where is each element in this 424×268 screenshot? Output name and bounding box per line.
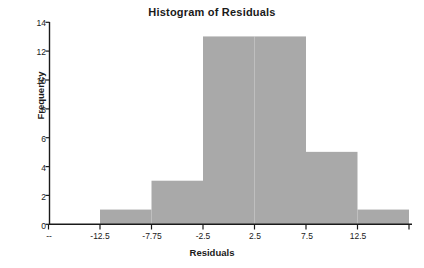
histogram-bars (100, 36, 409, 224)
histogram-bar (306, 152, 358, 224)
histogram-bar (100, 210, 152, 224)
histogram-chart: Histogram of Residuals Frequency 14 12 1… (0, 0, 424, 268)
histogram-bar (152, 181, 204, 224)
histogram-bar (203, 36, 255, 224)
plot-area (0, 0, 424, 268)
histogram-bar (358, 210, 410, 224)
histogram-bar (255, 36, 307, 224)
x-tick-marks (49, 224, 410, 229)
